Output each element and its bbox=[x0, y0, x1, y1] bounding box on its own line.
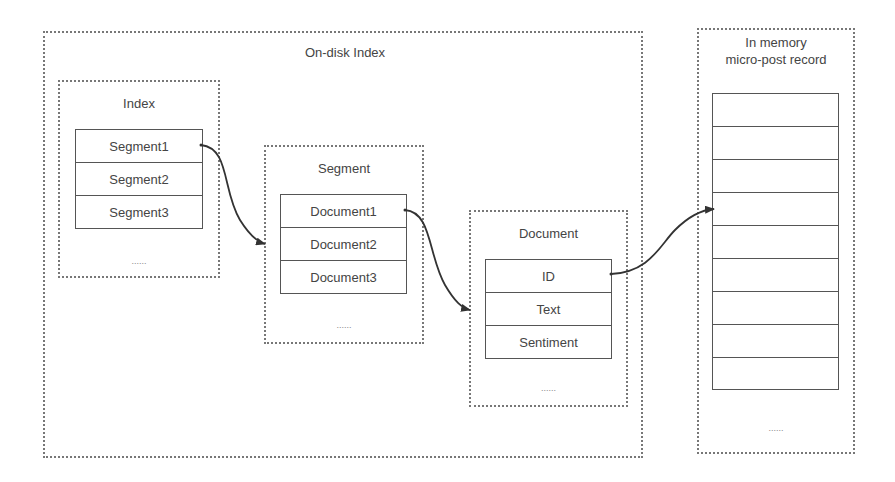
in-memory-title-line1: In memory bbox=[697, 35, 855, 50]
segment-row-document1: Document1 bbox=[281, 195, 406, 228]
index-row-segment1: Segment1 bbox=[76, 130, 202, 163]
record-row bbox=[713, 94, 838, 127]
segment-table: Document1 Document2 Document3 bbox=[280, 194, 407, 294]
in-memory-record-table bbox=[712, 93, 839, 390]
segment-title: Segment bbox=[264, 161, 424, 176]
index-table: Segment1 Segment2 Segment3 bbox=[75, 129, 203, 229]
document-row-id: ID bbox=[486, 260, 611, 293]
record-row bbox=[713, 127, 838, 160]
document-more-ellipsis: ...... bbox=[469, 383, 628, 393]
in-memory-more-ellipsis: ...... bbox=[697, 423, 855, 433]
record-row bbox=[713, 226, 838, 259]
record-row bbox=[713, 259, 838, 292]
record-row bbox=[713, 292, 838, 325]
on-disk-index-title: On-disk Index bbox=[243, 45, 447, 60]
document-row-text: Text bbox=[486, 293, 611, 326]
document-table: ID Text Sentiment bbox=[485, 259, 612, 359]
index-row-segment3: Segment3 bbox=[76, 196, 202, 229]
segment-row-document3: Document3 bbox=[281, 261, 406, 294]
index-title: Index bbox=[58, 96, 220, 111]
record-row bbox=[713, 193, 838, 226]
in-memory-title-line2: micro-post record bbox=[697, 52, 855, 67]
record-row bbox=[713, 160, 838, 193]
document-title: Document bbox=[469, 226, 628, 241]
record-row bbox=[713, 358, 838, 391]
segment-more-ellipsis: ...... bbox=[264, 320, 424, 330]
index-more-ellipsis: ...... bbox=[58, 256, 220, 266]
segment-row-document2: Document2 bbox=[281, 228, 406, 261]
record-row bbox=[713, 325, 838, 358]
document-row-sentiment: Sentiment bbox=[486, 326, 611, 359]
index-row-segment2: Segment2 bbox=[76, 163, 202, 196]
